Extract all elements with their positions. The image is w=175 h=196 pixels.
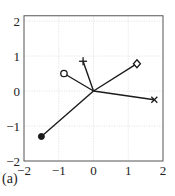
diamond-marker-icon <box>133 60 140 68</box>
panel-label: (a) <box>2 171 18 187</box>
series-circle <box>61 70 94 91</box>
y-tick-label: −2 <box>6 155 20 168</box>
filled-circle-marker-icon <box>38 134 44 140</box>
x-tick-label: 0 <box>90 164 97 177</box>
series-cross <box>94 91 158 103</box>
grid-lines <box>24 16 163 161</box>
y-tick-label: 1 <box>14 50 21 63</box>
y-tick-label: 2 <box>14 15 21 28</box>
plus-marker-icon <box>79 57 87 65</box>
x-tick-label: 2 <box>160 164 167 177</box>
y-tick-label: −1 <box>6 120 20 133</box>
series-diamond <box>94 60 141 91</box>
circle-marker-icon <box>61 70 67 76</box>
series-filled <box>38 91 93 140</box>
x-tick-label: −1 <box>52 164 66 177</box>
data-series <box>38 57 157 139</box>
x-tick-label: 1 <box>125 164 132 177</box>
y-tick-label: 0 <box>14 85 21 98</box>
